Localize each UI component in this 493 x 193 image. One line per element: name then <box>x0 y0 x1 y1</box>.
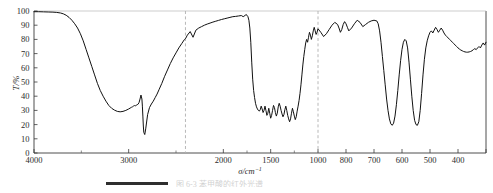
x-tick-label: 600 <box>396 155 409 165</box>
dashed-marker-lines <box>185 11 318 153</box>
y-axis-title: T/% <box>11 66 21 100</box>
x-tick-label: 400 <box>452 155 465 165</box>
x-tick-label: 500 <box>424 155 437 165</box>
x-tick-label: 2000 <box>215 155 232 165</box>
caption-rule <box>106 182 168 185</box>
spectrum-plot: 0102030405060708090100 40003000200015001… <box>0 0 493 175</box>
y-tick-label: 50 <box>21 77 30 87</box>
caption-label: 图 6-3 苯甲酸的红外光谱 <box>176 178 476 187</box>
y-tick-label: 80 <box>21 34 30 44</box>
figure-container: 0102030405060708090100 40003000200015001… <box>0 0 493 193</box>
y-tick-label: 60 <box>21 63 30 73</box>
y-tick-label: 20 <box>21 120 30 130</box>
x-tick-label: 4000 <box>26 155 43 165</box>
y-tick-label: 30 <box>21 105 30 115</box>
y-tick-label: 90 <box>21 20 30 30</box>
x-axis-ticks: 40003000200015001000800700600500400 <box>26 149 487 165</box>
y-tick-label: 70 <box>21 49 30 59</box>
plot-frame <box>34 11 486 153</box>
x-tick-label: 1000 <box>310 155 327 165</box>
spectrum-svg: 0102030405060708090100 40003000200015001… <box>0 0 493 175</box>
figure-caption: 图 6-3 苯甲酸的红外光谱 <box>0 176 493 193</box>
x-tick-label: 3000 <box>120 155 137 165</box>
x-axis-title: σ/cm−1 <box>238 166 262 175</box>
y-tick-label: 100 <box>17 6 30 16</box>
transmittance-curve <box>34 12 486 135</box>
y-tick-label: 10 <box>21 134 30 144</box>
y-tick-label: 40 <box>21 91 30 101</box>
x-tick-label: 800 <box>340 155 353 165</box>
x-tick-label: 700 <box>368 155 381 165</box>
x-tick-label: 1500 <box>262 155 279 165</box>
